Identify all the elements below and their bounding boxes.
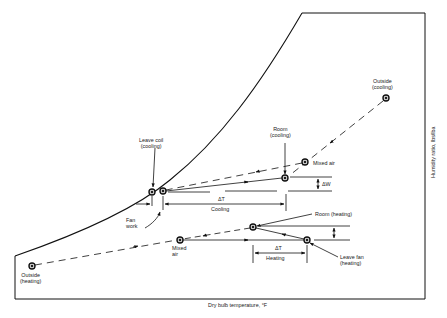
heating-process bbox=[35, 214, 350, 265]
label-room-heating: Room (heating) bbox=[315, 211, 352, 217]
label-delta-t-heating-symbol: ΔT bbox=[275, 245, 282, 251]
label-delta-w: ΔW bbox=[322, 181, 331, 187]
point-outside-cooling bbox=[383, 95, 389, 101]
psychrometric-diagram bbox=[0, 0, 447, 318]
point-supply-cooling bbox=[160, 188, 166, 194]
label-outside-heating: Outside (heating) bbox=[20, 272, 41, 284]
label-delta-t-heating: Heating bbox=[266, 255, 285, 261]
label-fan-work: Fan work bbox=[126, 217, 137, 229]
saturation-curve bbox=[15, 13, 302, 256]
state-points bbox=[29, 95, 389, 269]
point-mixed-air-heating bbox=[177, 237, 183, 243]
label-room-cooling: Room (cooling) bbox=[270, 126, 291, 138]
label-delta-t-cooling-symbol: ΔT bbox=[218, 196, 225, 202]
x-axis-label: Dry bulb temperature, °F bbox=[208, 302, 267, 308]
cooling-process bbox=[136, 101, 383, 228]
point-mixed-air-cooling bbox=[302, 159, 308, 165]
label-mixed-air-cooling: Mixed air bbox=[313, 160, 335, 166]
supply-to-room-line bbox=[166, 178, 282, 191]
point-leave-fan-heating bbox=[304, 237, 310, 243]
mixed-to-coil-line bbox=[166, 163, 302, 190]
point-room-cooling bbox=[282, 175, 288, 181]
label-leave-fan-heating: Leave fan (heating) bbox=[340, 254, 364, 266]
point-leave-coil-cooling bbox=[149, 189, 155, 195]
label-leave-coil-cooling: Leave coil (cooling) bbox=[139, 137, 163, 149]
label-mixed-air-heating: Mixed air bbox=[172, 245, 186, 257]
outside-to-mixed-heating-line bbox=[35, 240, 177, 265]
label-outside-cooling: Outside (cooling) bbox=[372, 78, 393, 90]
label-delta-t-cooling: Cooling bbox=[211, 206, 229, 212]
y-axis-label: Humidity ratio, lbs/lba bbox=[430, 126, 436, 178]
room-to-mixed-heating-line bbox=[183, 228, 250, 239]
point-outside-heating bbox=[29, 263, 35, 269]
leavefan-to-room-line bbox=[256, 228, 304, 239]
point-room-heating bbox=[250, 224, 256, 230]
